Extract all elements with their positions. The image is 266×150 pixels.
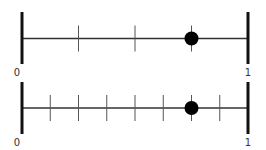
- plotted-point: [185, 101, 199, 115]
- fourths-number-line: 0 1: [14, 12, 251, 78]
- start-label: 0: [14, 67, 20, 78]
- eighths-number-line: 0 1: [14, 82, 251, 148]
- plotted-point: [185, 32, 199, 46]
- end-label: 1: [245, 67, 251, 78]
- number-line-diagram: 0 1 0 1: [0, 0, 266, 150]
- end-label: 1: [245, 137, 251, 148]
- start-label: 0: [14, 137, 20, 148]
